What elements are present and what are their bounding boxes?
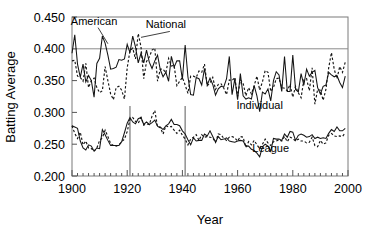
annotation-label: National [146, 18, 186, 30]
chart-figure: 190019201940196019802000 0.2000.2500.300… [0, 0, 370, 231]
y-axis-label: Batting Average [3, 51, 18, 143]
annotation-label: American [71, 15, 117, 27]
y-tick-label: 0.400 [34, 42, 65, 56]
annotation-label: League [252, 142, 289, 154]
y-tick-label: 0.250 [34, 138, 65, 152]
x-tick-label: 1960 [224, 182, 252, 196]
x-axis-label: Year [197, 212, 224, 227]
x-tick-label: 2000 [334, 182, 362, 196]
y-tick-label: 0.450 [34, 11, 65, 25]
y-tick-label: 0.200 [34, 170, 65, 184]
x-tick-label: 1900 [58, 182, 86, 196]
y-tick-label: 0.350 [34, 74, 65, 88]
x-tick-label: 1920 [113, 182, 141, 196]
batting-average-chart: 190019201940196019802000 0.2000.2500.300… [0, 0, 370, 231]
annotation-label: Individual [236, 99, 282, 111]
x-tick-label: 1940 [168, 182, 196, 196]
x-tick-label: 1980 [279, 182, 307, 196]
y-tick-label: 0.300 [34, 106, 65, 120]
